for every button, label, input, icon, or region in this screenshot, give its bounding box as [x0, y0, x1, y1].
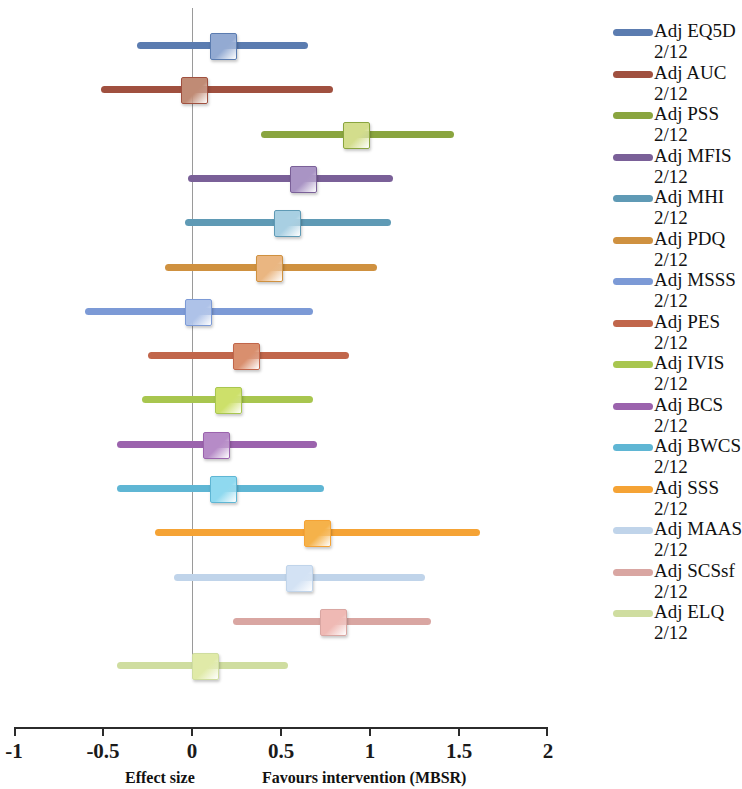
- legend-label: Adj AUC: [654, 62, 726, 83]
- legend-item[interactable]: Adj AUC2/12: [613, 62, 741, 104]
- legend-label: Adj PSS: [654, 103, 719, 124]
- legend-item[interactable]: Adj MAAS2/12: [613, 518, 741, 560]
- axis-caption-effect-size: Effect size: [125, 769, 195, 787]
- forest-row: [0, 382, 600, 416]
- axis-caption-favours-intervention: Favours intervention (MBSR): [262, 769, 466, 787]
- axis-cap-right: [546, 727, 548, 736]
- legend-label: Adj MFIS: [654, 145, 732, 166]
- legend-color-swatch: [613, 71, 653, 78]
- legend-item[interactable]: Adj BWCS2/12: [613, 435, 741, 477]
- legend-sublabel: 2/12: [654, 290, 688, 311]
- legend-color-swatch: [613, 569, 653, 576]
- legend-label: Adj BWCS: [654, 435, 741, 456]
- forest-row: [0, 28, 600, 62]
- legend-label: Adj SCSsf: [654, 560, 735, 581]
- legend-color-swatch: [613, 278, 653, 285]
- effect-estimate-marker: [233, 343, 260, 370]
- legend-sublabel: 2/12: [654, 415, 688, 436]
- legend-label: Adj IVIS: [654, 352, 724, 373]
- legend-sublabel: 2/12: [654, 539, 688, 560]
- legend-sublabel: 2/12: [654, 498, 688, 519]
- legend-item[interactable]: Adj PSS2/12: [613, 103, 741, 145]
- legend-color-swatch: [613, 195, 653, 202]
- legend-item[interactable]: Adj EQ5D2/12: [613, 20, 741, 62]
- legend-label: Adj MHI: [654, 186, 724, 207]
- effect-estimate-marker: [256, 255, 283, 282]
- legend-label: Adj ELQ: [654, 601, 724, 622]
- legend-label: Adj SSS: [654, 477, 719, 498]
- legend-color-swatch: [613, 112, 653, 119]
- legend-item[interactable]: Adj MHI2/12: [613, 186, 741, 228]
- axis-tick: [191, 727, 193, 736]
- legend-item[interactable]: Adj BCS2/12: [613, 394, 741, 436]
- legend-color-swatch: [613, 29, 653, 36]
- effect-estimate-marker: [215, 387, 242, 414]
- forest-row: [0, 250, 600, 284]
- legend: Adj EQ5D2/12Adj AUC2/12Adj PSS2/12Adj MF…: [613, 20, 741, 643]
- legend-label: Adj PES: [654, 311, 720, 332]
- legend-color-swatch: [613, 361, 653, 368]
- effect-estimate-marker: [274, 210, 301, 237]
- axis-tick: [280, 727, 282, 736]
- axis-tick-label: -1: [0, 739, 44, 763]
- legend-item[interactable]: Adj SCSsf2/12: [613, 560, 741, 602]
- legend-item[interactable]: Adj PDQ2/12: [613, 228, 741, 270]
- effect-estimate-marker: [286, 565, 313, 592]
- legend-color-swatch: [613, 527, 653, 534]
- legend-sublabel: 2/12: [654, 249, 688, 270]
- forest-row: [0, 338, 600, 372]
- axis-tick-label: 0.5: [251, 739, 311, 763]
- forest-row: [0, 604, 600, 638]
- forest-row: [0, 294, 600, 328]
- confidence-interval-bar: [101, 86, 332, 93]
- legend-color-swatch: [613, 320, 653, 327]
- legend-sublabel: 2/12: [654, 41, 688, 62]
- legend-item[interactable]: Adj MFIS2/12: [613, 145, 741, 187]
- legend-color-swatch: [613, 154, 653, 161]
- forest-row: [0, 117, 600, 151]
- legend-label: Adj EQ5D: [654, 20, 736, 41]
- forest-row: [0, 427, 600, 461]
- legend-label: Adj BCS: [654, 394, 723, 415]
- axis-cap-left: [14, 727, 16, 736]
- effect-estimate-marker: [192, 653, 219, 680]
- legend-sublabel: 2/12: [654, 207, 688, 228]
- axis-tick-label: 1.5: [429, 739, 489, 763]
- effect-estimate-marker: [210, 33, 237, 60]
- axis-tick-label: 2: [518, 739, 578, 763]
- legend-color-swatch: [613, 237, 653, 244]
- legend-item[interactable]: Adj IVIS2/12: [613, 352, 741, 394]
- effect-estimate-marker: [320, 609, 347, 636]
- effect-estimate-marker: [304, 520, 331, 547]
- legend-item[interactable]: Adj MSSS2/12: [613, 269, 741, 311]
- legend-item[interactable]: Adj ELQ2/12: [613, 601, 741, 643]
- legend-item[interactable]: Adj SSS2/12: [613, 477, 741, 519]
- legend-color-swatch: [613, 610, 653, 617]
- legend-label: Adj MSSS: [654, 269, 736, 290]
- effect-estimate-marker: [290, 166, 317, 193]
- effect-estimate-marker: [203, 432, 230, 459]
- effect-estimate-marker: [210, 476, 237, 503]
- legend-sublabel: 2/12: [654, 332, 688, 353]
- legend-item[interactable]: Adj PES2/12: [613, 311, 741, 353]
- legend-sublabel: 2/12: [654, 83, 688, 104]
- effect-estimate-marker: [343, 122, 370, 149]
- legend-sublabel: 2/12: [654, 124, 688, 145]
- legend-sublabel: 2/12: [654, 456, 688, 477]
- forest-row: [0, 471, 600, 505]
- forest-row: [0, 515, 600, 549]
- legend-sublabel: 2/12: [654, 581, 688, 602]
- forest-row: [0, 560, 600, 594]
- axis-tick-label: -0.5: [73, 739, 133, 763]
- axis-tick: [458, 727, 460, 736]
- effect-estimate-marker: [181, 77, 208, 104]
- forest-row: [0, 72, 600, 106]
- legend-color-swatch: [613, 444, 653, 451]
- axis-tick: [102, 727, 104, 736]
- legend-color-swatch: [613, 403, 653, 410]
- legend-sublabel: 2/12: [654, 622, 688, 643]
- plot-area: [0, 0, 600, 720]
- legend-sublabel: 2/12: [654, 166, 688, 187]
- forest-row: [0, 648, 600, 682]
